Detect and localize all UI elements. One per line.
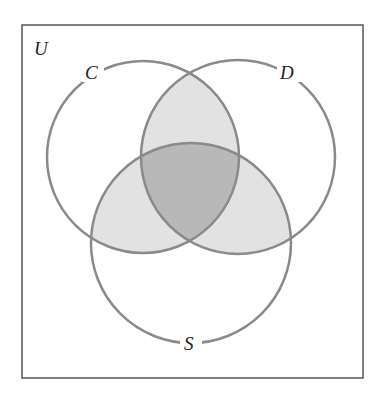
set-d-label: D — [279, 62, 294, 83]
venn-diagram: U C D S — [0, 0, 387, 398]
set-s-label: S — [184, 333, 194, 354]
set-c-label: C — [85, 62, 98, 83]
universe-label: U — [34, 38, 49, 59]
